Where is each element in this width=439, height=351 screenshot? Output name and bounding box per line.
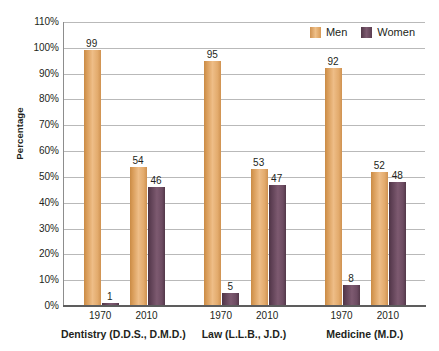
y-tick-label: 10% [14, 275, 59, 285]
y-tick-label: 80% [14, 94, 59, 104]
bar-value-label: 46 [142, 175, 170, 187]
legend-swatch-women-icon [361, 27, 372, 38]
legend-entry-men: Men [310, 26, 347, 38]
bar-value-label: 54 [124, 155, 152, 167]
gridline [64, 48, 425, 49]
bar-value-label: 92 [319, 56, 347, 68]
y-axis-tick-labels: 110%100%90%80%70%60%50%40%30%20%10%0% [14, 22, 59, 306]
y-tick-label: 40% [14, 198, 59, 208]
legend-entry-women: Women [361, 26, 415, 38]
x-tick-label-year: 2010 [244, 310, 290, 322]
x-axis-year-labels: 197020101970201019702010 [63, 310, 426, 324]
bar-value-label: 1 [96, 291, 124, 303]
gridline [64, 74, 425, 75]
y-tick-label: 60% [14, 146, 59, 156]
gridline [64, 125, 425, 126]
x-axis-group-label: Medicine (M.D.) [290, 328, 439, 341]
bar-women: 48 [389, 182, 406, 306]
gridline [64, 151, 425, 152]
y-tick-label: 100% [14, 43, 59, 53]
bar-men: 53 [251, 169, 268, 306]
bar-men: 52 [371, 172, 388, 306]
legend-label-women: Women [377, 26, 415, 38]
y-tick-label: 110% [14, 17, 59, 27]
x-tick-label-year: 1970 [198, 310, 244, 322]
bar-men: 54 [130, 167, 147, 306]
bar-value-label: 8 [337, 273, 365, 285]
legend-label-men: Men [326, 26, 347, 38]
y-tick-label: 50% [14, 172, 59, 182]
bar-women: 8 [343, 285, 360, 306]
x-axis-group-labels: Dentistry (D.D.S., D.M.D.)Law (L.L.B., J… [63, 328, 426, 344]
bar-value-label: 53 [245, 157, 273, 169]
bar-value-label: 5 [216, 281, 244, 293]
x-axis-line [63, 305, 426, 307]
chart-legend: Men Women [310, 26, 415, 38]
y-tick-label: 20% [14, 249, 59, 259]
x-tick-label-year: 1970 [77, 310, 123, 322]
bar-value-label: 99 [78, 38, 106, 50]
gridline [64, 99, 425, 100]
x-tick-label-year: 2010 [365, 310, 411, 322]
y-tick-label: 70% [14, 120, 59, 130]
bar-men: 92 [325, 68, 342, 306]
bar-men: 95 [204, 61, 221, 306]
x-tick-label-year: 1970 [319, 310, 365, 322]
bar-women: 46 [148, 187, 165, 306]
bar-women: 47 [269, 185, 286, 306]
bar-value-label: 47 [263, 173, 291, 185]
gridline [64, 22, 425, 23]
legend-swatch-men-icon [310, 27, 321, 38]
x-tick-label-year: 2010 [124, 310, 170, 322]
bar-value-label: 95 [198, 49, 226, 61]
bar-value-label: 48 [383, 170, 411, 182]
plot-area: 991544695553479285248 Men Women [63, 22, 425, 306]
y-tick-label: 0% [14, 301, 59, 311]
y-tick-label: 30% [14, 224, 59, 234]
grouped-bar-chart: Percentage 110%100%90%80%70%60%50%40%30%… [0, 0, 439, 351]
y-tick-label: 90% [14, 69, 59, 79]
bar-men: 99 [84, 50, 101, 306]
